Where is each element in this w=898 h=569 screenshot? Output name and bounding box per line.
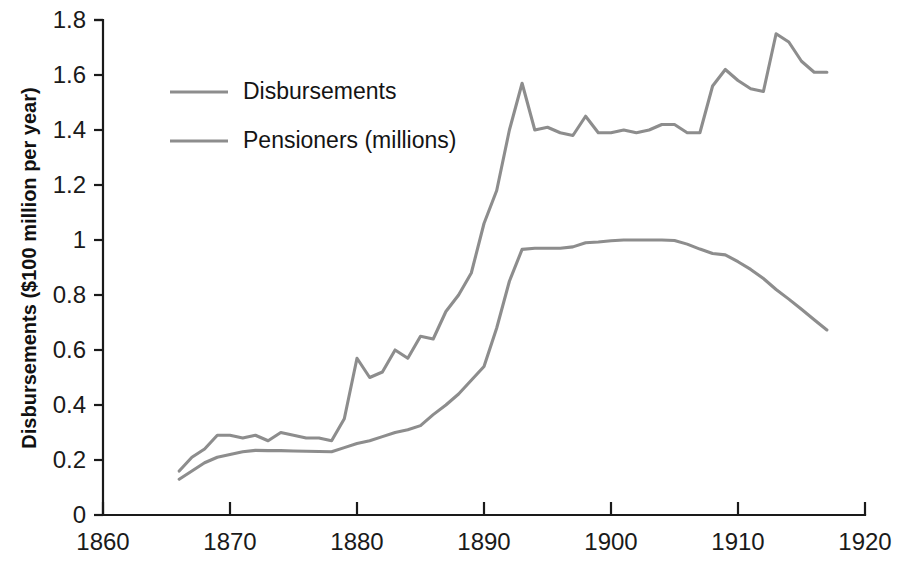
y-tick-label: 1.8	[53, 6, 86, 33]
chart-container: Disbursements ($100 million per year) 00…	[0, 0, 898, 569]
x-axis-ticks: 1860187018801890190019101920	[76, 502, 891, 555]
legend-label-1: Disbursements	[243, 78, 396, 104]
axis-lines	[103, 20, 865, 515]
x-tick-label: 1880	[330, 528, 383, 555]
y-tick-label: 1.4	[53, 116, 86, 143]
line-chart: Disbursements ($100 million per year) 00…	[0, 0, 898, 569]
y-axis-title: Disbursements ($100 million per year)	[18, 87, 40, 448]
series-line-pensioners-millions	[179, 240, 827, 479]
y-tick-label: 0.8	[53, 281, 86, 308]
x-tick-label: 1910	[711, 528, 764, 555]
x-tick-label: 1900	[584, 528, 637, 555]
y-tick-label: 0.2	[53, 446, 86, 473]
y-tick-label: 1	[73, 226, 86, 253]
chart-legend: DisbursementsPensioners (millions)	[170, 78, 456, 153]
y-tick-label: 0.6	[53, 336, 86, 363]
x-tick-label: 1870	[203, 528, 256, 555]
legend-label-2: Pensioners (millions)	[243, 127, 456, 153]
x-tick-label: 1860	[76, 528, 129, 555]
y-tick-label: 1.6	[53, 61, 86, 88]
y-axis-ticks: 00.20.40.60.811.21.41.61.8	[53, 6, 103, 528]
x-tick-label: 1890	[457, 528, 510, 555]
y-tick-label: 0.4	[53, 391, 86, 418]
y-tick-label: 0	[73, 501, 86, 528]
y-tick-label: 1.2	[53, 171, 86, 198]
y-axis-title-label: Disbursements ($100 million per year)	[18, 87, 40, 448]
x-tick-label: 1920	[838, 528, 891, 555]
